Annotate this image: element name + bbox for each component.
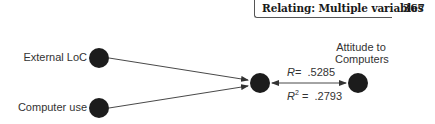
r-symbol: R [287, 66, 295, 78]
r2-symbol: R [287, 90, 295, 102]
node-external-loc [89, 48, 109, 68]
stat-r-squared: R2 = .2793 [287, 89, 342, 102]
r-value: .5285 [308, 66, 336, 78]
node-computer-use [89, 98, 109, 118]
label-attitude-line2: Computers [335, 53, 387, 65]
node-attitude-to-computers [348, 73, 368, 93]
r-equals: = [295, 66, 301, 78]
label-attitude-to-computers: Attitude to Computers [335, 41, 387, 65]
path-external-loc-to-combined [109, 58, 248, 80]
label-computer-use: Computer use [18, 101, 87, 113]
r2-value: .2793 [314, 90, 342, 102]
path-computer-use-to-combined [109, 86, 248, 108]
node-combined-predictors [250, 73, 270, 93]
label-external-loc: External LoC [23, 51, 87, 63]
stat-multiple-r: R= .5285 [287, 66, 335, 78]
r2-equals: = [302, 90, 308, 102]
label-attitude-line1: Attitude to [335, 41, 387, 53]
r2-exponent: 2 [295, 89, 299, 96]
